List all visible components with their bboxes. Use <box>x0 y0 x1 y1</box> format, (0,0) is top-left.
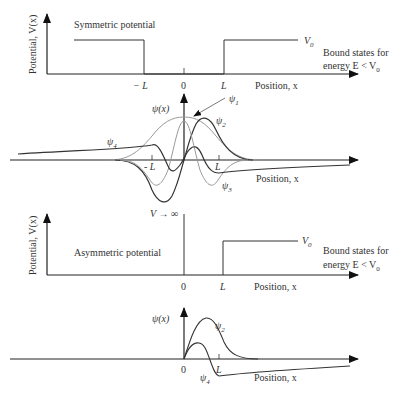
psi-axis-label: ψ(x) <box>152 103 170 115</box>
tick-L: L <box>220 80 227 91</box>
psi4-label: ψ4 <box>107 136 117 150</box>
tick-neg-L-label: - L <box>144 161 156 172</box>
psi3-label: ψ3 <box>222 180 232 194</box>
v0-label: V0 <box>302 235 312 249</box>
tick-L-label: L <box>215 364 222 375</box>
tick-zero: 0 <box>181 364 186 375</box>
potential-step <box>223 241 298 275</box>
y-axis-label: Potential, V(x) <box>27 216 39 275</box>
symmetric-potential-panel: Potential, V(x) Symmetric potential V0 B… <box>27 14 389 91</box>
x-axis-label: Position, x <box>254 281 297 292</box>
psi2-label: ψ2 <box>216 115 226 129</box>
bound-states-energy: energy E < V0 <box>323 259 380 273</box>
psi1-label: ψ1 <box>229 93 239 107</box>
v0-label: V0 <box>304 35 314 49</box>
tick-L: L <box>219 281 226 292</box>
panel-title: Asymmetric potential <box>74 247 161 258</box>
symmetric-wavefunctions-panel: ψ(x) ψ1 ψ2 ψ3 ψ4 - L L Position, x <box>10 93 358 202</box>
x-axis-label: Position, x <box>256 173 299 184</box>
bound-states-label: Bound states for <box>323 47 389 58</box>
tick-zero: 0 <box>181 80 186 91</box>
asymmetric-potential-panel: Potential, V(x) Asymmetric potential V →… <box>27 208 389 292</box>
tick-L-label: L <box>214 161 221 172</box>
x-axis-label: Position, x <box>255 80 298 91</box>
tick-neg-L: − L <box>133 80 148 91</box>
quantum-well-diagram: Potential, V(x) Symmetric potential V0 B… <box>0 0 405 399</box>
y-axis-label: Potential, V(x) <box>27 15 39 74</box>
panel-title: Symmetric potential <box>74 19 156 30</box>
infinite-label: V → ∞ <box>150 208 178 219</box>
psi1-pointer <box>194 98 225 116</box>
psi-axis-label: ψ(x) <box>152 313 170 325</box>
asymmetric-wavefunctions-panel: ψ(x) ψ2 ψ4 0 L Position, x <box>10 308 358 386</box>
x-axis-label: Position, x <box>254 372 297 383</box>
tick-zero: 0 <box>181 281 186 292</box>
bound-states-energy: energy E < V0 <box>323 60 380 74</box>
potential-curve <box>74 40 298 74</box>
bound-states-label: Bound states for <box>323 245 389 256</box>
psi4-label: ψ4 <box>200 372 210 386</box>
